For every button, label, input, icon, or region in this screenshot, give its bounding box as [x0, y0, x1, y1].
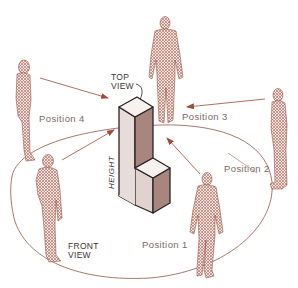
- arrow-position-4: [40, 78, 108, 98]
- position-4-label: Position 4: [39, 114, 85, 124]
- orthographic-views-diagram: TOP VIEW Position 4 Position 3 Position …: [0, 0, 298, 288]
- figure-position-2: [270, 89, 287, 190]
- figure-front-view: [36, 155, 62, 263]
- figure-position-3: [149, 17, 183, 124]
- position-2-label: Position 2: [224, 164, 270, 174]
- figure-position-1: [190, 173, 223, 279]
- height-label: HEIGHT: [107, 156, 116, 189]
- front-view-label: FRONT VIEW: [68, 242, 99, 260]
- arrow-position-3: [187, 99, 265, 107]
- position-1-label: Position 1: [142, 240, 188, 250]
- front-view-label-line-2: VIEW: [68, 251, 99, 260]
- arrow-position-1: [167, 138, 200, 174]
- top-view-label: TOP VIEW: [111, 73, 134, 91]
- position-3-label: Position 3: [182, 112, 228, 122]
- top-view-label-line-2: VIEW: [111, 82, 134, 91]
- figure-position-4: [16, 60, 35, 161]
